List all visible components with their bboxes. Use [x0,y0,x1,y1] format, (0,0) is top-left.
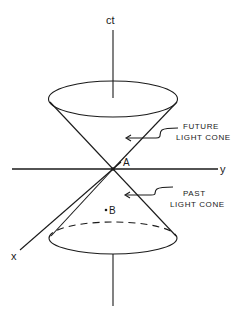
future-pointer-arrow [127,128,178,138]
apex-point [111,167,115,171]
past-cone-left-edge [51,169,113,236]
future-cone-left-edge [50,102,113,169]
x-axis [20,162,121,250]
event-b-point [105,209,108,212]
past-label-line2: LIGHT CONE [170,200,225,209]
past-cone-rim-front [49,238,177,254]
future-label-line1: FUTURE [183,122,219,131]
past-cone-right-edge [113,169,176,236]
ct-axis-label: ct [106,14,115,26]
past-label-line1: PAST [183,189,206,198]
y-axis-label: y [220,163,226,175]
event-b-label: B [109,205,116,216]
x-axis-label: x [11,250,17,262]
light-cone-diagram: ct y x A B FUTURE LIGHT CONE PAST LIGHT … [0,0,244,320]
future-label-line2: LIGHT CONE [176,133,231,142]
apex-label: A [123,157,130,168]
past-cone-rim-back [49,222,177,238]
